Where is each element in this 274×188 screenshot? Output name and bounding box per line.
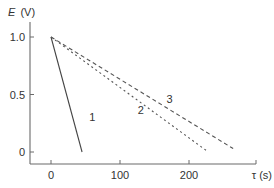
series-line-2 [51, 37, 208, 152]
x-tick-label: 200 [180, 169, 198, 181]
series-line-3 [51, 37, 233, 149]
series-line-1 [51, 37, 82, 152]
x-tick-label: 0 [48, 169, 54, 181]
series-label-3: 3 [167, 93, 173, 105]
y-axis-label: E (V) [8, 6, 35, 18]
series-label-2: 2 [138, 104, 144, 116]
y-tick-label: 1.0 [10, 31, 25, 43]
x-axis-label: τ (s) [252, 169, 272, 181]
series-label-1: 1 [89, 111, 95, 123]
series: 123 [51, 37, 233, 152]
y-axis-unit: (V) [20, 6, 35, 18]
x-tick-label: 100 [111, 169, 129, 181]
y-tick-label: 0.5 [10, 89, 25, 101]
chart: 010020000.51.0 123 E (V) τ (s) [0, 0, 274, 188]
y-tick-label: 0 [19, 146, 25, 158]
ticks: 010020000.51.0 [10, 31, 256, 181]
y-axis-symbol: E [8, 6, 16, 18]
